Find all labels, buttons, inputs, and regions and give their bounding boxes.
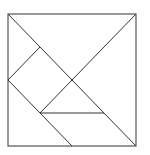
left-upper-segment — [8, 47, 40, 80]
tangram-diagram — [0, 0, 150, 155]
anti-diagonal-segment — [40, 14, 136, 113]
